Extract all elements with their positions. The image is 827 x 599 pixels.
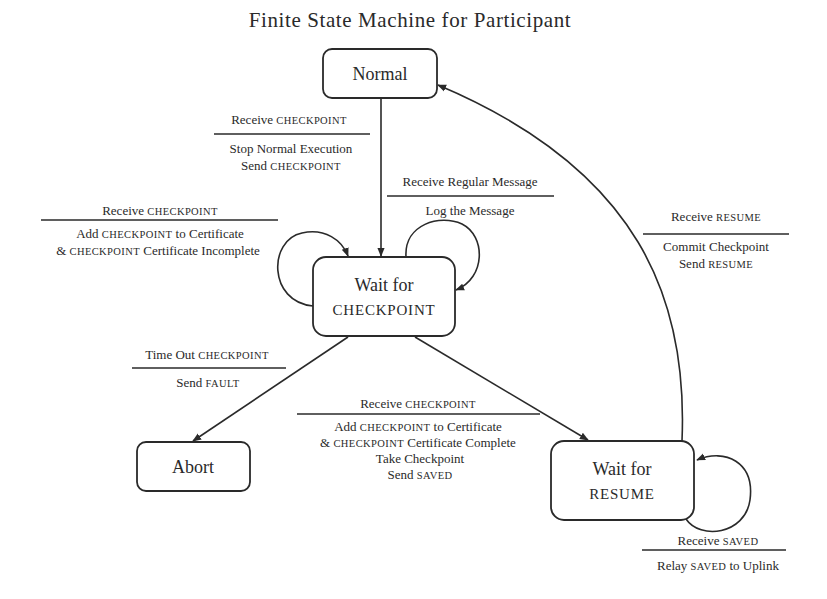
state-wait-resume-line1: Wait for (592, 459, 651, 479)
action-text: & CHECKPOINT Certificate Complete (320, 435, 516, 450)
event-text: Receive RESUME (671, 209, 761, 224)
label-wait-checkpoint-self-right: Receive Regular Message Log the Message (387, 174, 554, 218)
fsm-diagram: Finite State Machine for Participant Nor… (0, 0, 827, 599)
event-text: Receive CHECKPOINT (102, 203, 218, 218)
event-text: Receive CHECKPOINT (360, 396, 476, 411)
edge-wait-resume-self (686, 456, 751, 532)
state-abort: Abort (137, 442, 250, 491)
action-text: Send RESUME (679, 256, 753, 271)
state-wait-resume-line2: RESUME (589, 486, 655, 502)
action-text: Add CHECKPOINT to Certificate (334, 419, 502, 434)
action-text: Relay SAVED to Uplink (657, 558, 779, 573)
label-wait-resume-self: Receive SAVED Relay SAVED to Uplink (642, 533, 786, 573)
label-wait-checkpoint-to-wait-resume: Receive CHECKPOINT Add CHECKPOINT to Cer… (297, 396, 540, 482)
event-text: Receive CHECKPOINT (231, 112, 347, 127)
action-text: Send SAVED (388, 467, 453, 482)
label-normal-to-wait-checkpoint: Receive CHECKPOINT Stop Normal Execution… (214, 112, 370, 173)
action-text: Send FAULT (176, 375, 240, 390)
event-text: Time Out CHECKPOINT (145, 347, 269, 362)
action-text: Commit Checkpoint (663, 239, 769, 254)
event-text: Receive Regular Message (402, 174, 537, 189)
state-wait-resume: Wait for RESUME (551, 441, 694, 520)
action-text: Add CHECKPOINT to Certificate (76, 226, 244, 241)
action-text: Log the Message (426, 203, 515, 218)
label-wait-resume-to-normal: Receive RESUME Commit Checkpoint Send RE… (643, 209, 789, 271)
event-text: Receive SAVED (678, 533, 759, 548)
label-wait-checkpoint-self-left: Receive CHECKPOINT Add CHECKPOINT to Cer… (41, 203, 278, 258)
action-text: & CHECKPOINT Certificate Incomplete (56, 243, 260, 258)
state-normal: Normal (323, 49, 437, 98)
state-abort-label: Abort (172, 457, 214, 477)
action-text: Stop Normal Execution (230, 141, 353, 156)
action-text: Take Checkpoint (376, 451, 465, 466)
state-wait-checkpoint-line2: CHECKPOINT (332, 302, 435, 318)
label-wait-checkpoint-to-abort: Time Out CHECKPOINT Send FAULT (132, 347, 286, 390)
state-wait-checkpoint: Wait for CHECKPOINT (313, 257, 455, 336)
edge-wait-resume-to-normal (438, 85, 682, 441)
diagram-title: Finite State Machine for Participant (249, 8, 572, 32)
state-wait-checkpoint-line1: Wait for (354, 275, 413, 295)
action-text: Send CHECKPOINT (241, 158, 341, 173)
state-normal-label: Normal (353, 64, 408, 84)
